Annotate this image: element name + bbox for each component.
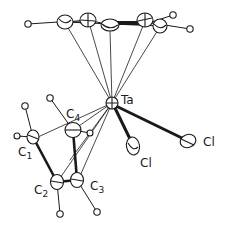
c3-atom [71,173,84,188]
c1-label-sub: 1 [26,151,32,161]
ta-atom [106,97,118,109]
c1-label: C1 [18,145,32,161]
c1-label-base: C [18,145,26,159]
cl-atom-1 [125,136,141,156]
cp-carbon-atoms [57,13,167,33]
c3-label: C3 [90,179,104,195]
c2-label-base: C [34,183,42,197]
c3-label-sub: 3 [98,185,104,195]
c2-atom [51,175,64,190]
cl-atom-2 [178,132,197,150]
molecule-diagram: Ta Cl Cl C4 C1 C2 C3 [0,0,227,233]
c4-atom [65,123,81,138]
c3-label-base: C [90,179,98,193]
c4-label-base: C [66,107,74,121]
c1-atom [27,130,39,144]
c2-label: C2 [34,183,48,199]
c4-label: C4 [66,107,80,123]
c4-label-sub: 4 [74,113,80,123]
ta-label: Ta [120,93,134,107]
c2-label-sub: 2 [42,189,48,199]
cl-label-2: Cl [203,135,215,149]
cl-label-1: Cl [140,156,152,170]
ortep-structure: Ta Cl Cl C4 C1 C2 C3 [0,0,227,233]
